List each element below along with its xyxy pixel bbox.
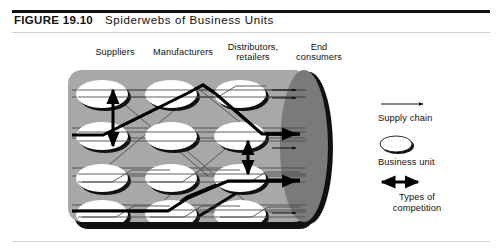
legend-label-line1: Types of [386, 192, 448, 203]
end-consumer-node [280, 70, 333, 224]
footer-rule [12, 241, 490, 242]
spiderweb-diagram [0, 0, 503, 252]
legend-label-types-of-competition: Types of competition [386, 192, 448, 213]
legend-label-line2: competition [386, 203, 448, 214]
legend-label-business-unit: Business unit [378, 157, 435, 168]
figure-container: FIGURE 19.10Spiderwebs of Business Units… [0, 0, 503, 252]
legend-label-supply-chain: Supply chain [378, 113, 432, 124]
legend-business-unit-icon [380, 136, 414, 154]
